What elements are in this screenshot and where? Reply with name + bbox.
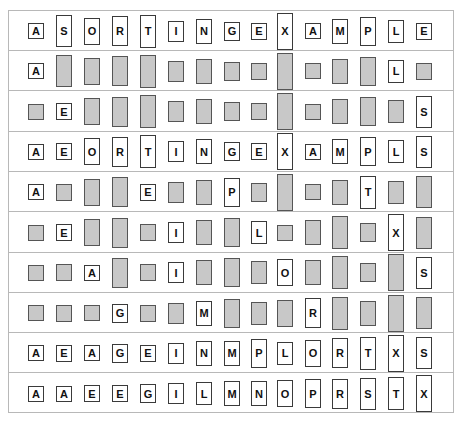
key-box: T [140, 15, 156, 48]
hidden-key-box [28, 305, 44, 321]
hidden-key-box [277, 300, 293, 327]
key-box: O [277, 259, 293, 286]
hidden-key-box [332, 216, 348, 249]
key-box: M [332, 19, 348, 44]
hidden-key-box [305, 260, 321, 285]
key-box: E [416, 23, 432, 40]
hidden-key-box [277, 93, 293, 130]
key-box: M [224, 341, 240, 366]
hidden-key-box [388, 100, 404, 123]
hidden-key-box [360, 223, 376, 242]
key-box: M [332, 139, 348, 164]
hidden-key-box [360, 263, 376, 282]
key-box: A [28, 23, 44, 39]
hidden-key-box [388, 295, 404, 332]
hidden-key-box [416, 176, 432, 208]
hidden-key-box [224, 258, 240, 287]
hidden-key-box [224, 218, 240, 247]
key-box: P [224, 178, 240, 207]
key-box: A [28, 63, 44, 79]
key-box: S [360, 378, 376, 410]
key-box: S [416, 136, 432, 168]
hidden-key-box [168, 182, 184, 203]
hidden-key-box [277, 225, 293, 241]
hidden-key-box [56, 305, 72, 322]
hidden-key-box [224, 102, 240, 121]
key-box: I [168, 383, 184, 404]
hidden-key-box [140, 224, 156, 241]
hidden-key-box [332, 59, 348, 84]
key-box: E [56, 345, 72, 362]
hidden-key-box [112, 97, 128, 127]
hidden-key-box [305, 184, 321, 200]
hidden-key-box [224, 62, 240, 81]
key-box: R [305, 298, 321, 328]
hidden-key-box [360, 97, 376, 126]
key-box: O [277, 380, 293, 407]
key-box: A [305, 144, 321, 160]
hidden-key-box [140, 95, 156, 128]
hidden-key-box [196, 59, 212, 84]
key-box: E [140, 184, 156, 201]
hidden-key-box [251, 103, 267, 120]
key-box: L [196, 382, 212, 405]
key-box: E [56, 103, 72, 120]
key-box: L [388, 20, 404, 43]
hidden-key-box [84, 58, 100, 85]
key-box: A [56, 386, 72, 402]
key-box: T [360, 337, 376, 370]
key-box: L [388, 60, 404, 83]
trace-row: EILX [9, 213, 453, 253]
hidden-key-box [196, 260, 212, 285]
key-box: P [305, 379, 321, 408]
hidden-key-box [360, 301, 376, 326]
hidden-key-box [84, 179, 100, 206]
hidden-key-box [416, 217, 432, 249]
hidden-key-box [56, 55, 72, 87]
key-box: I [168, 343, 184, 364]
trace-row: AEORTINGEXAMPLS [9, 132, 453, 172]
key-box: G [140, 384, 156, 403]
hidden-key-box [388, 181, 404, 204]
key-box: E [56, 143, 72, 160]
trace-row: ASORTINGEXAMPLE [9, 11, 453, 51]
key-box: R [332, 379, 348, 409]
hidden-key-box [28, 104, 44, 120]
key-box: A [28, 184, 44, 200]
hidden-key-box [56, 184, 72, 201]
hidden-key-box [168, 101, 184, 122]
hidden-key-box [277, 53, 293, 90]
hidden-key-box [388, 254, 404, 291]
key-box: I [168, 222, 184, 243]
key-box: R [112, 137, 128, 167]
hidden-key-box [168, 303, 184, 324]
key-box: T [140, 135, 156, 168]
hidden-key-box [251, 261, 267, 284]
key-box: O [305, 340, 321, 367]
key-box: S [56, 15, 72, 47]
trace-row: AL [9, 51, 453, 91]
key-box: P [360, 17, 376, 46]
hidden-key-box [251, 63, 267, 80]
key-box: X [388, 214, 404, 251]
key-box: T [388, 377, 404, 410]
key-box: N [196, 139, 212, 164]
key-box: X [416, 375, 432, 412]
key-box: O [84, 18, 100, 45]
hidden-key-box [112, 258, 128, 288]
hidden-key-box [305, 63, 321, 79]
hidden-key-box [112, 177, 128, 207]
key-box: X [277, 13, 293, 50]
key-box: L [251, 221, 267, 244]
hidden-key-box [305, 220, 321, 245]
trace-row: AIOS [9, 253, 453, 293]
key-box: I [168, 262, 184, 283]
key-box: I [168, 141, 184, 162]
hidden-key-box [28, 265, 44, 281]
hidden-key-box [84, 219, 100, 246]
key-box: N [196, 19, 212, 44]
key-box: R [332, 338, 348, 368]
hidden-key-box [56, 264, 72, 281]
key-box: E [251, 143, 267, 160]
hidden-key-box [196, 220, 212, 245]
